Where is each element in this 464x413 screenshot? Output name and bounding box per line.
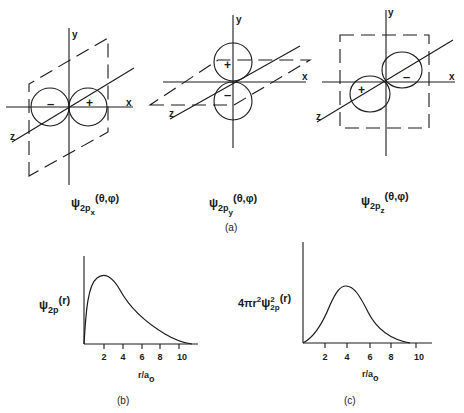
axis-label-y: y (388, 7, 394, 18)
x-tick-label: 2 (322, 352, 327, 362)
lobe-negative (382, 52, 422, 88)
x-tick-label: 10 (177, 352, 187, 362)
caption-b: (b) (117, 395, 129, 406)
x-tick-label: 8 (388, 352, 393, 362)
xlabel-r-over-a0: r/ao (138, 370, 155, 380)
axis-label-x: x (302, 71, 308, 82)
axis-label-z: z (316, 111, 321, 122)
xlabel-r-over-a0: r/ao (362, 369, 379, 379)
axis-label-x: x (449, 71, 455, 82)
lobe-sign-negative: – (47, 96, 54, 111)
chart-radial-probability (303, 242, 432, 348)
x-ticks (104, 344, 179, 349)
caption-a: (a) (225, 222, 237, 233)
orbital-title-2px: ψ2px(θ,φ) (71, 196, 119, 210)
axis-label-z: z (169, 108, 174, 119)
orbital-2pz-diagram (317, 10, 455, 156)
axis-label-x: x (126, 97, 132, 108)
lobe-sign-negative: – (224, 87, 231, 102)
x-tick-label: 10 (414, 352, 424, 362)
x-tick-label: 6 (139, 352, 144, 362)
x-tick-label: 4 (120, 352, 125, 362)
lobe-sign-positive: + (358, 83, 365, 97)
lobe-sign-negative: – (403, 69, 410, 84)
z-axis (317, 40, 453, 122)
axis-label-z: z (10, 131, 15, 142)
caption-c: (c) (344, 395, 356, 406)
curve-radial-probability (303, 286, 410, 343)
curve-psi-2p (84, 275, 192, 344)
orbital-2px-diagram (6, 28, 134, 185)
ylabel-radial-probability: 4πr2ψ22p(r) (238, 296, 291, 312)
orbital-title-2pz: ψ2pz(θ,φ) (361, 194, 409, 208)
z-axis (12, 68, 134, 142)
lobe-positive (350, 76, 390, 112)
axis-label-y: y (72, 29, 78, 40)
ylabel-psi-2p: ψ2p(r) (39, 298, 70, 312)
chart-radial-wavefunction (84, 256, 198, 349)
lobe-sign-positive: + (86, 96, 93, 110)
x-tick-label: 6 (367, 352, 372, 362)
x-tick-label: 4 (344, 352, 349, 362)
orbital-2py-diagram (150, 15, 310, 148)
x-tick-label: 2 (101, 352, 106, 362)
x-ticks (325, 343, 416, 348)
lobe-sign-positive: + (224, 58, 231, 72)
axis-label-y: y (236, 14, 242, 25)
x-tick-label: 8 (157, 352, 162, 362)
orbital-title-2py: ψ2py(θ,φ) (209, 196, 257, 210)
